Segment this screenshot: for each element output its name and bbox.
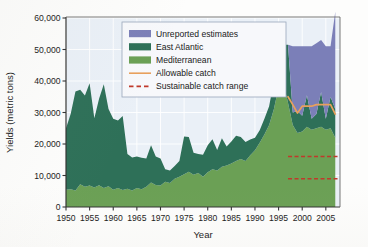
legend-label: Unreported estimates [156, 29, 238, 39]
legend-swatch [129, 56, 151, 63]
legend-swatch [129, 43, 151, 50]
y-axis: 010,00020,00030,00040,00050,00060,000 [34, 13, 66, 212]
chart-legend: Unreported estimatesEast AtlanticMediter… [122, 22, 286, 97]
x-tick-label: 1955 [80, 213, 99, 223]
y-tick-label: 40,000 [34, 76, 61, 86]
legend-swatch [129, 30, 151, 37]
y-tick-label: 60,000 [34, 13, 61, 23]
x-axis-label: Year [193, 229, 212, 240]
x-tick-label: 1990 [245, 213, 264, 223]
legend-label: Mediterranean [156, 55, 212, 65]
legend-label: East Atlantic [156, 42, 204, 52]
x-tick-label: 2005 [316, 213, 335, 223]
x-axis: 1950195519601965197019751980198519901995… [56, 207, 335, 223]
y-tick-label: 30,000 [34, 108, 61, 118]
legend-label: Sustainable catch range [156, 81, 248, 91]
x-tick-label: 2000 [293, 213, 312, 223]
legend-item: Mediterranean [129, 55, 212, 65]
x-tick-label: 1950 [56, 213, 75, 223]
y-tick-label: 50,000 [34, 45, 61, 55]
x-tick-label: 1960 [104, 213, 123, 223]
x-tick-label: 1970 [151, 213, 170, 223]
yields-area-chart: 010,00020,00030,00040,00050,00060,000Yie… [0, 0, 368, 247]
x-tick-label: 1965 [127, 213, 146, 223]
chart-figure: 010,00020,00030,00040,00050,00060,000Yie… [0, 0, 368, 247]
legend-label: Allowable catch [156, 68, 216, 78]
x-tick-label: 1985 [222, 213, 241, 223]
y-axis-label: Yields (metric tons) [4, 72, 15, 153]
y-tick-label: 0 [56, 202, 61, 212]
legend-item: Unreported estimates [129, 29, 238, 39]
legend-item: East Atlantic [129, 42, 204, 52]
y-tick-label: 20,000 [34, 139, 61, 149]
x-tick-label: 1980 [198, 213, 217, 223]
y-tick-label: 10,000 [34, 171, 61, 181]
x-tick-label: 1975 [175, 213, 194, 223]
x-tick-label: 1995 [269, 213, 288, 223]
